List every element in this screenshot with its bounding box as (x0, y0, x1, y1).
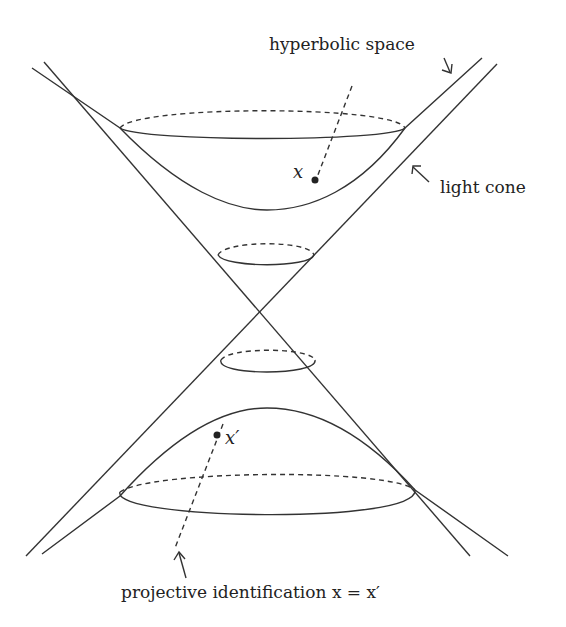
lower-ellipse-front (120, 490, 415, 515)
upper-ellipse-front (120, 128, 405, 139)
small-upper-ellipse-front (218, 255, 314, 265)
small-lower-ellipse-front (221, 360, 315, 372)
light-cone-line-1 (44, 62, 470, 556)
point-x-prime-dot (214, 432, 221, 439)
light-cone-arrow-icon (412, 166, 429, 182)
point-x-label: x (293, 161, 303, 182)
projective-line-lower (175, 424, 223, 548)
lower-hyperboloid-sheet (42, 408, 508, 556)
light-cone-label: light cone (440, 177, 526, 197)
hyperbolic-space-arrow-icon (442, 58, 452, 73)
upper-hyperboloid-sheet (32, 58, 482, 210)
small-lower-ellipse-back (221, 350, 315, 360)
hyperboloid-diagram: x x′ hyperbolic space light cone project… (0, 0, 566, 627)
upper-ellipse-back (120, 111, 405, 128)
projective-line-upper (316, 86, 352, 180)
small-upper-ellipse-back (218, 244, 314, 255)
point-x-dot (312, 177, 319, 184)
point-x-prime-label: x′ (225, 427, 239, 448)
lower-ellipse-back (120, 474, 415, 492)
projective-identification-label: projective identification x = x′ (121, 582, 380, 602)
hyperbolic-space-label: hyperbolic space (269, 34, 415, 54)
projective-arrow-icon (174, 552, 186, 578)
